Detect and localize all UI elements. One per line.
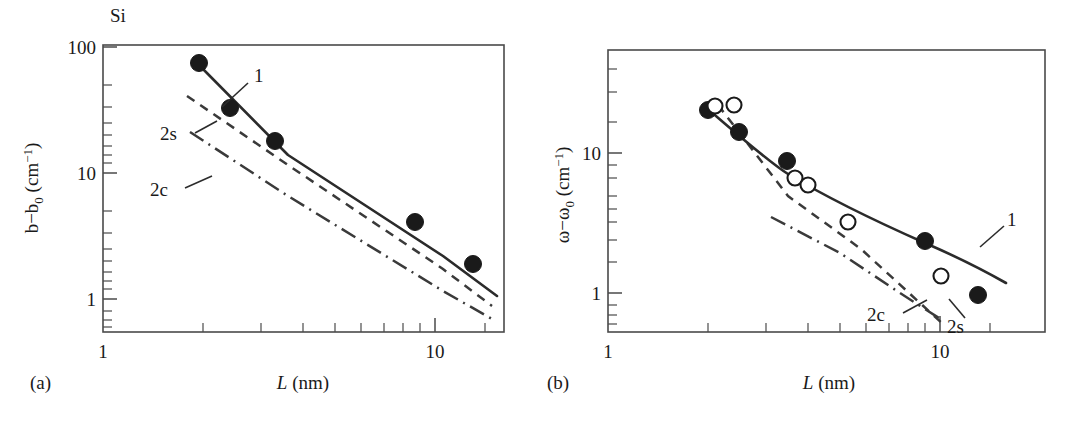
data-point: [465, 256, 482, 273]
y-axis-title-a: b−b0 (cm−1): [20, 143, 46, 234]
data-point: [801, 178, 816, 193]
data-point: [917, 233, 934, 250]
x-axis-title-italic-b: L: [802, 372, 814, 393]
data-point: [934, 269, 949, 284]
data-point: [267, 133, 284, 150]
material-label: Si: [110, 5, 126, 26]
curve-2s-a: [187, 96, 492, 306]
x-tick-label-10-b: 10: [931, 341, 950, 362]
y-axis-title-close-a: ): [21, 143, 43, 149]
y-axis-title-b: ω−ω0 (cm−1): [551, 147, 577, 244]
y-tick-label-10-b: 10: [582, 143, 601, 164]
panel-label-b: (b): [547, 372, 569, 394]
panel-b: 10 1 1 10 ω−ω0 (cm−1) L (nm) (b): [539, 0, 1078, 426]
panel-a: Si: [0, 0, 539, 426]
x-axis-title-italic-a: L: [276, 372, 288, 393]
data-point: [841, 215, 856, 230]
y-axis-major-ticks-b: [608, 153, 622, 293]
y-tick-label-1-a: 1: [87, 289, 97, 310]
data-point: [708, 99, 723, 114]
data-point: [731, 124, 748, 141]
y-tick-label-10-a: 10: [77, 163, 96, 184]
curve-label-2s-b: 2s: [947, 316, 964, 337]
curve-label-1-b: 1: [1007, 209, 1017, 230]
x-axis-title-a: L (nm): [276, 372, 329, 394]
x-axis-title-b: L (nm): [802, 372, 855, 394]
curve-1-a: [199, 65, 497, 296]
y-tick-label-1-b: 1: [592, 283, 602, 304]
figure-container: Si: [0, 0, 1078, 426]
data-point: [222, 100, 239, 117]
svg-text:b−b0 (cm−1): b−b0 (cm−1): [20, 143, 46, 234]
panel-a-canvas: Si: [0, 0, 539, 426]
x-axis-title-rest-b: (nm): [813, 372, 855, 394]
y-axis-title-sup-b: −1: [551, 153, 566, 167]
y-axis-title-close-b: ): [552, 147, 574, 153]
x-axis-title-rest-a: (nm): [287, 372, 329, 394]
curve-label-1-a: 1: [254, 65, 264, 86]
y-axis-title-unit-a: (cm: [21, 163, 43, 198]
curve-label-2c-b: 2c: [867, 304, 885, 325]
data-point: [779, 153, 796, 170]
x-tick-label-10-a: 10: [426, 341, 445, 362]
curve-label-2s-a: 2s: [160, 123, 177, 144]
data-point: [191, 55, 208, 72]
panel-b-canvas: 10 1 1 10 ω−ω0 (cm−1) L (nm) (b): [539, 0, 1078, 426]
curve-2c-b: [771, 217, 942, 320]
curve-label-2c-a: 2c: [150, 179, 168, 200]
y-axis-minor-ticks-a: [103, 85, 112, 327]
data-point: [970, 287, 987, 304]
leader-line-2c-a: [185, 176, 212, 188]
curve-2c-a: [190, 132, 492, 319]
x-axis-ticks-a: [203, 318, 485, 332]
y-axis-title-sup-a: −1: [20, 149, 35, 163]
y-axis-minor-ticks-b: [608, 69, 617, 324]
curve-1-b: [709, 110, 1006, 283]
y-axis-title-unit-b: (cm: [552, 167, 574, 202]
x-tick-label-1-b: 1: [603, 341, 613, 362]
panel-label-a: (a): [30, 372, 51, 394]
leader-line-1-b: [980, 226, 1004, 247]
x-tick-label-1-a: 1: [98, 341, 108, 362]
y-tick-label-100-a: 100: [68, 37, 97, 58]
y-axis-title-main-a: b−b: [21, 204, 42, 234]
data-point: [407, 214, 424, 231]
data-points-filled-a: [191, 55, 482, 273]
y-axis-title-main-b: ω−ω: [552, 208, 573, 244]
curve-2s-b: [718, 105, 944, 325]
leader-line-2s-a: [195, 121, 217, 133]
svg-text:ω−ω0 (cm−1): ω−ω0 (cm−1): [551, 147, 577, 244]
data-point: [727, 98, 742, 113]
